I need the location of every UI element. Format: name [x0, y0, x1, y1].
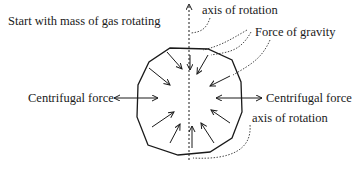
start-label: Start with mass of gas rotating [8, 15, 160, 28]
centrifugal-force-left-label: Centrifugal force [28, 92, 114, 105]
axis-of-rotation-bottom-label: axis of rotation [252, 112, 328, 125]
axis-of-rotation-top-label: axis of rotation [202, 4, 278, 17]
leader-lines [191, 18, 270, 158]
centrifugal-force-right-label: Centrifugal force [266, 92, 352, 105]
force-of-gravity-label: Force of gravity [255, 26, 336, 39]
